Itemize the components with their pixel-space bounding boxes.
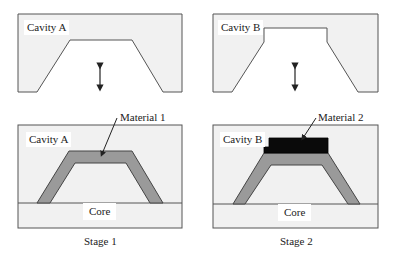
cavity-a-label-open: Cavity A <box>24 20 69 35</box>
stage2-caption: Stage 2 <box>280 236 313 247</box>
core-label-stage1: Core <box>83 203 116 220</box>
cavity-b-label-closed: Cavity B <box>220 132 265 147</box>
core-label-stage2: Core <box>278 204 311 221</box>
material2-label: Material 2 <box>318 112 364 123</box>
cavity-b-label-open: Cavity B <box>218 20 263 35</box>
two-shot-molding-diagram <box>0 0 398 259</box>
material2-layer <box>264 138 328 153</box>
stage1-caption: Stage 1 <box>84 236 117 247</box>
material1-label: Material 1 <box>120 112 166 123</box>
cavity-a-label-closed: Cavity A <box>26 132 71 147</box>
